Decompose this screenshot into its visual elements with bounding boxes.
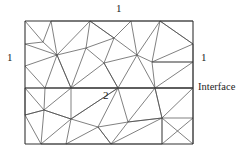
- mesh-segment: [162, 88, 193, 118]
- mesh-segment: [45, 55, 57, 88]
- mesh-segment: [41, 110, 44, 144]
- mesh-segment: [160, 21, 193, 44]
- mesh-segment: [44, 88, 71, 110]
- label-region-2: 2: [103, 90, 109, 101]
- mesh-segment: [131, 21, 137, 55]
- mesh-segment: [86, 38, 114, 48]
- mesh-segment: [152, 62, 155, 88]
- label-interface: Interface: [198, 82, 235, 93]
- mesh-segment: [66, 127, 98, 144]
- mesh-figure: 1 1 1 Interface 2: [0, 0, 252, 154]
- mesh-segment: [86, 21, 90, 48]
- mesh-segment: [90, 21, 114, 38]
- mesh-segment: [111, 122, 128, 144]
- mesh-segment: [43, 21, 51, 42]
- mesh-segment: [98, 127, 111, 144]
- mesh-segment: [44, 110, 71, 119]
- mesh-segment: [128, 118, 162, 122]
- mesh-segment: [25, 66, 45, 88]
- label-right-region-1: 1: [201, 52, 207, 63]
- mesh-segment: [25, 42, 43, 44]
- mesh-segment: [104, 38, 114, 63]
- mesh-segment: [25, 88, 44, 110]
- mesh-segment: [71, 88, 118, 119]
- label-top-region-1: 1: [116, 3, 122, 14]
- mesh-segment: [25, 55, 57, 66]
- mesh-segment: [25, 110, 44, 115]
- mesh-segment: [25, 115, 41, 144]
- mesh-segment: [71, 119, 98, 127]
- mesh-segment: [111, 118, 162, 144]
- triangular-mesh-diagram: [0, 0, 252, 154]
- mesh-segment: [25, 21, 43, 42]
- mesh-segment: [114, 21, 131, 38]
- mesh-segment: [118, 88, 128, 122]
- mesh-segment: [104, 63, 118, 88]
- mesh-segment: [57, 55, 71, 88]
- mesh-segment: [152, 44, 193, 62]
- mesh-segment: [114, 38, 137, 55]
- mesh-segment: [104, 55, 137, 63]
- mesh-segment: [118, 55, 137, 88]
- mesh-segment: [155, 62, 193, 88]
- mesh-segment: [155, 88, 162, 118]
- label-left-region-1: 1: [7, 52, 13, 63]
- mesh-edges-group: [25, 21, 193, 144]
- mesh-segment: [25, 44, 57, 55]
- mesh-segment: [57, 48, 86, 55]
- mesh-segment: [128, 88, 155, 122]
- mesh-segment: [86, 48, 104, 63]
- mesh-segment: [98, 122, 128, 127]
- mesh-segment: [44, 88, 45, 110]
